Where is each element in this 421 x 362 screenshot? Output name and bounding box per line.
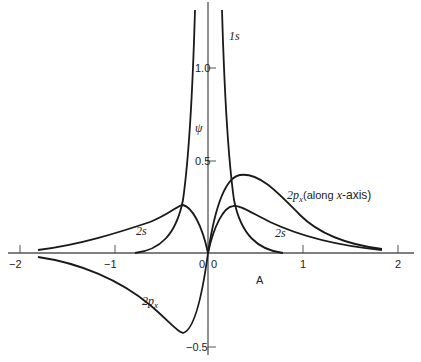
label-2px-right: 2px(along x-axis) [287, 188, 371, 204]
label-2s-right: 2s [275, 226, 286, 240]
wavefunction-chart: −2 −1 0 0 1 2 1.0 0.5 −0.5 ψ A 1s 2s 2s … [0, 0, 421, 362]
x-tick-label: −2 [9, 258, 22, 270]
y-tick-label: 1.0 [195, 62, 210, 74]
curve-2px [208, 175, 382, 253]
curve-2s [208, 206, 382, 253]
x-axis-label: A [256, 274, 264, 286]
x-tick-label: 0 [211, 258, 217, 270]
curve-2s [38, 205, 208, 253]
label-2s-left: 2s [136, 224, 147, 238]
x-tick-label: 1 [300, 258, 306, 270]
curve-1s [135, 10, 195, 253]
y-tick-label: 0.5 [195, 155, 210, 167]
curve-1s [222, 10, 283, 253]
x-tick-label: −1 [104, 258, 117, 270]
label-2px-left: 2px [142, 294, 158, 310]
x-tick-label: 2 [395, 258, 401, 270]
x-tick-label: 0 [199, 258, 205, 270]
curve-2px [38, 253, 208, 333]
y-tick-label: −0.5 [186, 341, 208, 353]
label-1s: 1s [229, 29, 240, 43]
y-ticks [208, 68, 216, 347]
y-axis-label: ψ [195, 121, 203, 135]
